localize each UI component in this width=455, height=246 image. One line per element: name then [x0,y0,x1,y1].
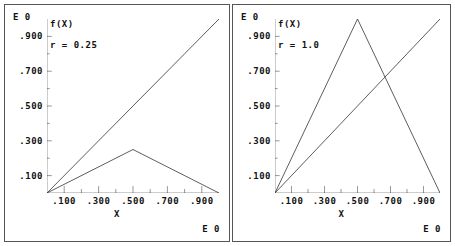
exponent-label-top: E 0 [241,13,259,22]
y-axis-ticks [275,36,280,175]
x-tick-label: .300 [87,197,111,206]
y-tick-label: .900 [247,32,271,41]
x-axis-ticks [64,186,202,193]
x-axis-ticks [291,186,423,193]
curve-identity [47,19,219,193]
exponent-label-bottom: E 0 [202,225,220,234]
y-tick-label: .700 [19,67,43,76]
y-tick-label: .700 [247,67,271,76]
plot-area-right: .900 .700 .500 .300 .100 .100 .300 .500 … [275,19,440,193]
y-tick-label: .900 [19,32,43,41]
y-tick-label: .300 [19,136,43,145]
x-tick-label: .900 [190,197,214,206]
exponent-label-bottom: E 0 [423,225,441,234]
exponent-label-top: E 0 [13,13,31,22]
x-axis-title: X [114,210,120,219]
x-tick-label: .700 [379,197,403,206]
y-tick-label: .100 [247,171,271,180]
x-tick-label: .100 [280,197,304,206]
plot-curves-left [47,19,219,193]
x-tick-label: .700 [156,197,180,206]
plot-panel-container: E 0 E 0 f(X) r = 0.25 X .900 .700 .500 .… [0,0,455,246]
curve-identity [275,19,440,193]
y-tick-label: .100 [19,171,43,180]
x-tick-label: .100 [52,197,76,206]
y-axis-ticks [47,36,52,175]
plot-screenshot: E 0 E 0 f(X) r = 0.25 X .900 .700 .500 .… [0,0,455,246]
x-axis-title: X [339,210,345,219]
plot-curves-right [275,19,440,193]
x-tick-label: .300 [313,197,337,206]
panel-right: E 0 E 0 f(X) r = 1.0 X .900 .700 .500 .3… [232,4,451,242]
y-tick-label: .300 [247,136,271,145]
x-tick-label: .500 [346,197,370,206]
y-tick-label: .500 [247,102,271,111]
x-tick-label: .900 [412,197,436,206]
x-tick-label: .500 [121,197,145,206]
panel-left: E 0 E 0 f(X) r = 0.25 X .900 .700 .500 .… [4,4,230,242]
y-tick-label: .500 [19,102,43,111]
plot-area-left: .900 .700 .500 .300 .100 .100 .300 .500 … [47,19,219,193]
